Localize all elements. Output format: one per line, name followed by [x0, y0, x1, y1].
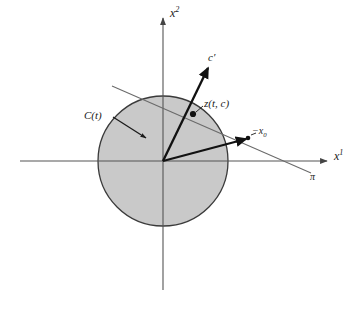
point-z-t-c: [190, 111, 196, 117]
point-z-t-c-label: z(t, c): [204, 98, 229, 109]
hyperplane-pi-label: π: [310, 172, 315, 182]
convex-set-label: C(t): [84, 110, 102, 121]
x2-axis-label: x2: [170, 7, 179, 19]
point-minus-x0: [246, 136, 251, 141]
vector-c-prime-label: c′: [208, 52, 215, 63]
x1-axis-label: x1: [334, 150, 343, 162]
diagram-svg: [0, 0, 355, 317]
figure-canvas: x2 x1 c′ z(t, c) −x0 C(t) π: [0, 0, 355, 317]
vector-minus-x0-label: −x0: [252, 126, 267, 136]
